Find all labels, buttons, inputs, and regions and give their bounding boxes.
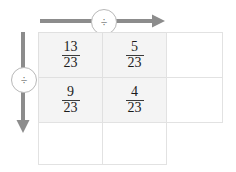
fraction-5-23: 5 23 <box>126 40 144 70</box>
grid-cell-r1c0[interactable]: 9 23 <box>38 77 103 123</box>
grid-cell-content <box>167 78 222 122</box>
fraction-13-23: 13 23 <box>62 40 80 70</box>
fraction-4-23: 4 23 <box>126 85 144 115</box>
grid-cell-r2c1[interactable] <box>102 122 167 165</box>
grid-cell-r1c1[interactable]: 4 23 <box>102 77 167 123</box>
grid-cell-r1c2[interactable] <box>166 77 223 123</box>
fraction-numerator: 13 <box>62 40 80 55</box>
grid-cell-content: 4 23 <box>103 78 166 122</box>
grid-cell-r0c1[interactable]: 5 23 <box>102 32 167 78</box>
diagram-canvas: ÷ ÷ 13 23 5 23 <box>0 0 236 172</box>
grid-cell-content: 5 23 <box>103 33 166 77</box>
top-divide-symbol: ÷ <box>101 16 108 28</box>
grid-cell-content <box>167 33 222 77</box>
fraction-denominator: 23 <box>62 55 80 71</box>
fraction-denominator: 23 <box>126 55 144 71</box>
fraction-denominator: 23 <box>62 100 80 116</box>
left-divide-symbol: ÷ <box>21 74 28 86</box>
left-divide-operator-badge: ÷ <box>11 67 37 93</box>
grid-cell-content: 9 23 <box>39 78 102 122</box>
fraction-grid: 13 23 5 23 9 <box>38 32 223 165</box>
grid-cell-r0c0[interactable]: 13 23 <box>38 32 103 78</box>
grid-cell-r0c2[interactable] <box>166 32 223 78</box>
grid-cell-content <box>39 123 102 164</box>
grid-cell-content: 13 23 <box>39 33 102 77</box>
fraction-numerator: 9 <box>62 85 80 100</box>
fraction-9-23: 9 23 <box>62 85 80 115</box>
grid-cell-r2c0[interactable] <box>38 122 103 165</box>
fraction-denominator: 23 <box>126 100 144 116</box>
fraction-numerator: 4 <box>126 85 144 100</box>
fraction-numerator: 5 <box>126 40 144 55</box>
grid-cell-content <box>103 123 166 164</box>
